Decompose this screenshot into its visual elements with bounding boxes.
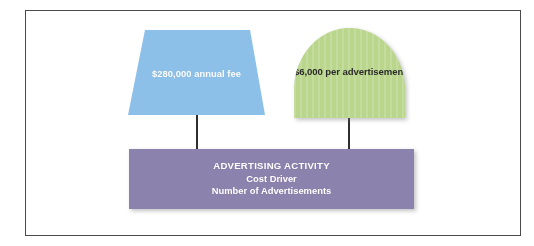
variable-cost-label: $6,000 per advertisement bbox=[294, 66, 405, 77]
fixed-cost-label: $280,000 annual fee bbox=[128, 68, 265, 79]
fixed-cost-node: $280,000 annual fee bbox=[128, 30, 265, 115]
activity-title: ADVERTISING ACTIVITY bbox=[129, 160, 414, 173]
connector-variable-cost-to-activity bbox=[348, 117, 350, 150]
activity-text-block: ADVERTISING ACTIVITY Cost Driver Number … bbox=[129, 160, 414, 198]
connector-fixed-cost-to-activity bbox=[196, 113, 198, 150]
diagram-canvas: $280,000 annual fee $6,000 per advertise… bbox=[0, 0, 534, 246]
activity-node: ADVERTISING ACTIVITY Cost Driver Number … bbox=[129, 149, 414, 209]
activity-cost-driver-value: Number of Advertisements bbox=[129, 185, 414, 198]
activity-cost-driver-label: Cost Driver bbox=[129, 173, 414, 186]
